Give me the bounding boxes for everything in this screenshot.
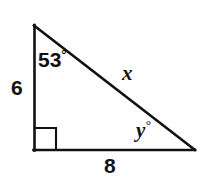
- side-label-hypotenuse: x: [122, 63, 133, 84]
- degree-symbol-icon: °: [61, 47, 66, 62]
- triangle-side-hypotenuse: [34, 26, 195, 151]
- right-angle-marker-icon: [34, 128, 56, 150]
- angle-label-apex: 53°: [38, 49, 67, 70]
- angle-label-bottom-right: y°: [136, 120, 151, 141]
- angle-bottom-right-value: y: [136, 118, 145, 142]
- angle-apex-value: 53: [38, 48, 61, 71]
- side-label-base-leg: 8: [104, 155, 116, 176]
- side-label-vertical-leg: 6: [11, 77, 23, 98]
- triangle-drawing: [0, 0, 204, 184]
- geometry-figure: 6 53° x y° 8: [0, 0, 204, 184]
- degree-symbol-icon: °: [145, 117, 150, 132]
